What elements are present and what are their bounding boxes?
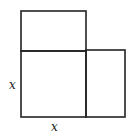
left-side-label: x xyxy=(9,78,16,92)
area-diagram: x x xyxy=(0,0,134,137)
top-rectangle xyxy=(21,11,86,51)
right-rectangle xyxy=(86,50,125,117)
center-square xyxy=(21,51,86,117)
bottom-side-label: x xyxy=(51,120,58,134)
